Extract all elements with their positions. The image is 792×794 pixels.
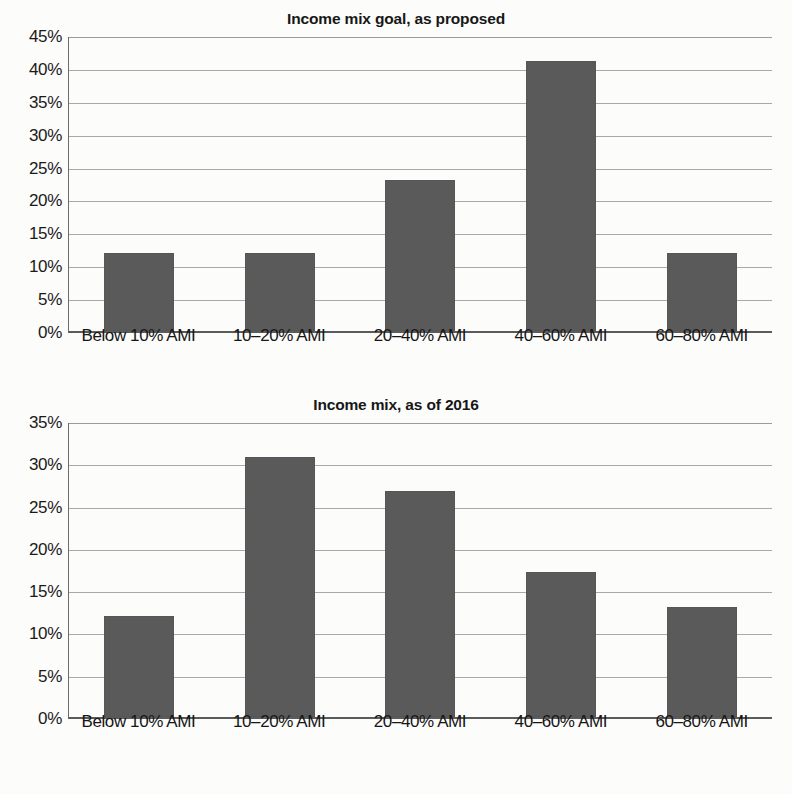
- x-tick-label-top-3: 40–60% AMI: [490, 326, 631, 346]
- bar-bottom-2[interactable]: [385, 491, 455, 717]
- y-axis-labels-top: 45%40%35%30%25%20%15%10%5%0%: [0, 37, 62, 333]
- x-tick-label-top-2: 20–40% AMI: [350, 326, 491, 346]
- bar-slot-top-1: [210, 37, 351, 331]
- chart-title-bottom: Income mix, as of 2016: [0, 396, 792, 413]
- chart-income-mix-2016: Income mix, as of 2016 35%30%25%20%15%10…: [0, 396, 792, 719]
- y-tick-label-bottom: 5%: [38, 667, 62, 687]
- bar-slot-top-4: [631, 37, 772, 331]
- y-tick-label-top: 15%: [29, 224, 62, 244]
- bar-slot-bottom-4: [631, 423, 772, 717]
- x-tick-label-top-0: Below 10% AMI: [68, 326, 209, 346]
- y-tick-label-bottom: 20%: [29, 540, 62, 560]
- y-tick-label-top: 5%: [38, 290, 62, 310]
- plot-wrap-bottom: 35%30%25%20%15%10%5%0%: [0, 423, 792, 719]
- x-tick-label-bottom-1: 10–20% AMI: [209, 712, 350, 732]
- y-tick-label-top: 25%: [29, 159, 62, 179]
- bar-slot-top-3: [491, 37, 632, 331]
- chart-title-top: Income mix goal, as proposed: [0, 10, 792, 27]
- x-tick-label-top-1: 10–20% AMI: [209, 326, 350, 346]
- bar-top-3[interactable]: [526, 61, 596, 331]
- bar-bottom-4[interactable]: [667, 607, 737, 717]
- y-tick-label-bottom: 15%: [29, 582, 62, 602]
- x-tick-label-top-4: 60–80% AMI: [631, 326, 772, 346]
- x-tick-label-bottom-4: 60–80% AMI: [631, 712, 772, 732]
- y-tick-label-top: 20%: [29, 191, 62, 211]
- y-tick-label-bottom: 0%: [38, 709, 62, 729]
- y-tick-label-bottom: 35%: [29, 413, 62, 433]
- y-tick-label-bottom: 30%: [29, 455, 62, 475]
- bar-series-top: [69, 37, 772, 331]
- y-tick-label-top: 30%: [29, 126, 62, 146]
- bar-top-0[interactable]: [104, 253, 174, 331]
- bar-slot-top-0: [69, 37, 210, 331]
- bar-slot-bottom-1: [210, 423, 351, 717]
- y-tick-label-top: 35%: [29, 93, 62, 113]
- bar-top-1[interactable]: [245, 253, 315, 331]
- plot-wrap-top: 45%40%35%30%25%20%15%10%5%0%: [0, 37, 792, 333]
- y-tick-label-top: 40%: [29, 60, 62, 80]
- y-tick-label-top: 0%: [38, 323, 62, 343]
- chart-income-mix-goal: Income mix goal, as proposed 45%40%35%30…: [0, 10, 792, 333]
- y-tick-label-top: 45%: [29, 27, 62, 47]
- bar-bottom-0[interactable]: [104, 616, 174, 717]
- chart-page: Income mix goal, as proposed 45%40%35%30…: [0, 0, 792, 794]
- plot-area-bottom: [68, 423, 772, 719]
- bar-series-bottom: [69, 423, 772, 717]
- bar-slot-bottom-2: [350, 423, 491, 717]
- bar-bottom-1[interactable]: [245, 457, 315, 717]
- x-tick-label-bottom-3: 40–60% AMI: [490, 712, 631, 732]
- y-axis-labels-bottom: 35%30%25%20%15%10%5%0%: [0, 423, 62, 719]
- x-axis-labels-bottom: Below 10% AMI10–20% AMI20–40% AMI40–60% …: [68, 712, 772, 732]
- bar-top-4[interactable]: [667, 253, 737, 331]
- bar-top-2[interactable]: [385, 180, 455, 331]
- bar-slot-top-2: [350, 37, 491, 331]
- y-tick-label-bottom: 10%: [29, 624, 62, 644]
- x-tick-label-bottom-0: Below 10% AMI: [68, 712, 209, 732]
- bar-bottom-3[interactable]: [526, 572, 596, 717]
- plot-area-top: [68, 37, 772, 333]
- bar-slot-bottom-0: [69, 423, 210, 717]
- y-tick-label-bottom: 25%: [29, 498, 62, 518]
- x-axis-labels-top: Below 10% AMI10–20% AMI20–40% AMI40–60% …: [68, 326, 772, 346]
- y-tick-label-top: 10%: [29, 257, 62, 277]
- bar-slot-bottom-3: [491, 423, 632, 717]
- x-tick-label-bottom-2: 20–40% AMI: [350, 712, 491, 732]
